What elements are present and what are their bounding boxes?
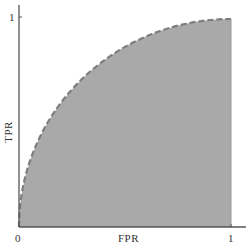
y-axis-label: TPR [2,121,14,143]
x-tick-label-1: 1 [228,232,234,244]
y-tick-label-1: 1 [9,11,15,23]
roc-chart: 1 0 1 FPR TPR [0,0,252,249]
x-tick-label-0: 0 [15,232,21,244]
auc-area [19,19,231,227]
x-axis-label: FPR [118,232,139,244]
